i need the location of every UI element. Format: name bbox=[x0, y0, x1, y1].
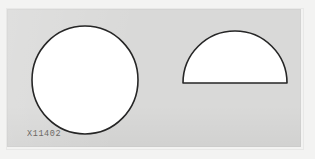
circle-shape bbox=[30, 24, 140, 136]
shape-card-scene: X11402 bbox=[0, 0, 315, 159]
specimen-label: X11402 bbox=[27, 129, 61, 139]
circle-outline bbox=[32, 26, 138, 134]
semicircle-outline bbox=[183, 31, 287, 83]
semicircle-shape bbox=[180, 25, 290, 87]
